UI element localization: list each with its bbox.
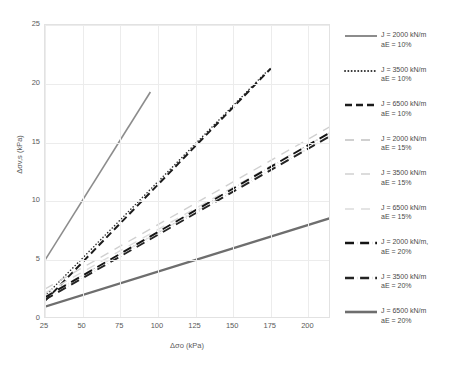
y-tick-label: 20	[14, 79, 40, 87]
legend-item[interactable]: J = 3500 kN/m aE = 20%	[344, 272, 456, 291]
y-tick-label: 0	[14, 314, 40, 322]
legend-item[interactable]: J = 2000 kN/m aE = 15%	[344, 134, 456, 153]
legend-swatch-line-longdash-lighter	[344, 169, 378, 179]
x-axis-label: Δσo (kPa)	[44, 341, 330, 350]
legend-item[interactable]: J = 6500 kN/m aE = 15%	[344, 203, 456, 222]
gridline-horizontal	[45, 84, 329, 85]
x-tick-label: 100	[142, 322, 172, 330]
gridline-vertical	[233, 25, 234, 317]
legend-item[interactable]: J = 2000 kN/m aE = 10%	[344, 30, 456, 49]
x-tick-label: 50	[67, 322, 97, 330]
gridline-vertical	[83, 25, 84, 317]
legend-label: J = 6500 kN/m aE = 10%	[381, 99, 456, 118]
legend-item[interactable]: J = 2000 kN/m, aE = 20%	[344, 237, 456, 256]
legend-swatch-line-dashdot-black	[344, 273, 378, 283]
gridline-vertical	[158, 25, 159, 317]
legend-label: J = 3500 kN/m aE = 10%	[381, 65, 456, 84]
chart-legend: J = 2000 kN/m aE = 10%J = 3500 kN/m aE =…	[344, 22, 456, 342]
series-line-8	[45, 218, 330, 307]
legend-label: J = 3500 kN/m aE = 20%	[381, 272, 456, 291]
x-tick-label: 75	[104, 322, 134, 330]
gridline-vertical	[45, 25, 46, 317]
series-line-3	[45, 126, 330, 289]
legend-item[interactable]: J = 3500 kN/m aE = 10%	[344, 65, 456, 84]
legend-label: J = 6500 kN/m aE = 15%	[381, 203, 456, 222]
legend-item[interactable]: J = 3500 kN/m aE = 15%	[344, 168, 456, 187]
legend-label: J = 2000 kN/m aE = 15%	[381, 134, 456, 153]
legend-swatch-line-dotted-dark	[344, 66, 378, 76]
gridline-horizontal	[45, 201, 329, 202]
series-canvas	[45, 25, 330, 318]
chart-figure: 0510152025 255075100125150175200 Δσv,s (…	[0, 0, 456, 372]
gridline-vertical	[308, 25, 309, 317]
series-line-7	[45, 136, 330, 300]
legend-item[interactable]: J = 6500 kN/m aE = 10%	[344, 99, 456, 118]
legend-swatch-line-solid-gray	[344, 31, 378, 41]
legend-swatch-line-solid-thick-gray	[344, 307, 378, 317]
legend-label: J = 3500 kN/m aE = 15%	[381, 168, 456, 187]
series-line-4	[45, 132, 330, 293]
gridline-horizontal	[45, 260, 329, 261]
series-line-0	[45, 92, 150, 260]
y-axis-label: Δσv,s (kPa)	[15, 110, 24, 200]
gridline-vertical	[196, 25, 197, 317]
legend-item[interactable]: J = 6500 kN/m aE = 20%	[344, 306, 456, 325]
plot-area	[44, 24, 330, 318]
x-tick-label: 150	[217, 322, 247, 330]
y-tick-label: 5	[14, 255, 40, 263]
gridline-vertical	[271, 25, 272, 317]
legend-swatch-line-dashed-dark	[344, 100, 378, 110]
legend-label: J = 6500 kN/m aE = 20%	[381, 306, 456, 325]
gridline-horizontal	[45, 143, 329, 144]
y-tick-label: 25	[14, 20, 40, 28]
x-tick-label: 25	[29, 322, 59, 330]
legend-swatch-line-dashdot-black	[344, 238, 378, 248]
legend-swatch-line-longdash-lightest	[344, 204, 378, 214]
series-line-6	[45, 132, 330, 297]
gridline-horizontal	[45, 25, 329, 26]
legend-label: J = 2000 kN/m aE = 10%	[381, 30, 456, 49]
legend-swatch-line-longdash-light	[344, 135, 378, 145]
x-tick-label: 200	[292, 322, 322, 330]
legend-label: J = 2000 kN/m, aE = 20%	[381, 237, 456, 256]
x-tick-label: 125	[180, 322, 210, 330]
gridline-vertical	[120, 25, 121, 317]
x-tick-label: 175	[255, 322, 285, 330]
